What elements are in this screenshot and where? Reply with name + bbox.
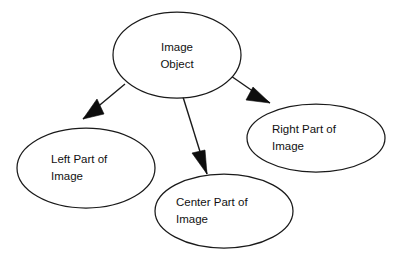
node-image-object[interactable]: Image Object	[113, 12, 241, 98]
edge-image-object-to-left-part[interactable]	[83, 84, 125, 119]
node-left-part-shape	[17, 128, 155, 208]
node-left-part-label-line2: Image	[51, 170, 83, 182]
node-right-part[interactable]: Right Part of Image	[247, 104, 385, 172]
node-left-part-label-line1: Left Part of	[51, 153, 108, 165]
edge-image-object-to-center-part[interactable]	[183, 97, 207, 174]
edge-image-object-to-right-part[interactable]	[231, 76, 270, 103]
diagram-canvas: Image Object Left Part of Image Center P…	[0, 0, 404, 263]
arrow-head-to-left	[83, 99, 104, 119]
node-center-part[interactable]: Center Part of Image	[155, 174, 293, 248]
node-right-part-shape	[247, 104, 385, 172]
node-center-part-label-line1: Center Part of	[176, 196, 248, 208]
node-left-part[interactable]: Left Part of Image	[17, 128, 155, 208]
object-decomposition-diagram: Image Object Left Part of Image Center P…	[0, 0, 404, 263]
node-right-part-label-line2: Image	[272, 140, 304, 152]
node-center-part-label-line2: Image	[176, 213, 208, 225]
node-image-object-shape	[113, 12, 241, 98]
node-right-part-label-line1: Right Part of	[272, 123, 337, 135]
node-image-object-label-line1: Image	[161, 41, 193, 53]
arrow-head-to-center	[192, 150, 207, 174]
node-center-part-shape	[155, 174, 293, 248]
node-image-object-label-line2: Object	[160, 58, 194, 70]
nodes-group: Image Object Left Part of Image Center P…	[17, 12, 385, 248]
